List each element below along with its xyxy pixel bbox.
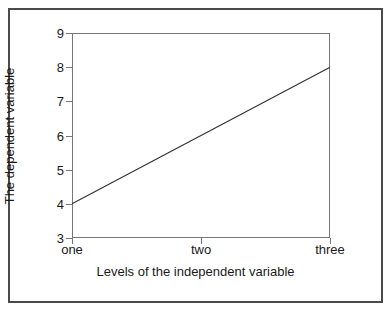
plot-series-layer [72,33,330,238]
y-tick-mark-8 [66,67,72,68]
y-tick-mark-9 [66,33,72,34]
data-line-series-1 [72,67,330,204]
x-tick-label-two: two [191,243,211,256]
y-tick-label-8: 8 [57,61,64,74]
y-tick-label-6: 6 [57,130,64,143]
y-tick-mark-4 [66,204,72,205]
figure-canvas: 9 8 7 6 5 4 3 one two three Levels of th… [0,0,391,311]
y-tick-mark-6 [66,136,72,137]
x-tick-label-three: three [315,243,345,256]
y-tick-label-4: 4 [57,198,64,211]
y-tick-mark-5 [66,170,72,171]
y-tick-label-5: 5 [57,164,64,177]
x-axis-tick-labels: one two three [0,243,391,261]
y-axis-label-container: The dependent variable [0,33,18,238]
y-tick-mark-7 [66,101,72,102]
x-tick-label-one: one [61,243,83,256]
x-axis-label: Levels of the independent variable [0,264,391,279]
y-axis-label: The dependent variable [2,67,17,204]
y-tick-label-9: 9 [57,27,64,40]
y-tick-label-7: 7 [57,95,64,108]
